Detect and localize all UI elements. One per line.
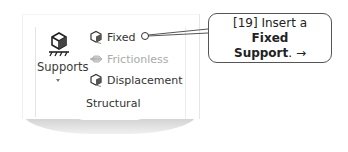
arrow-right-icon: → bbox=[296, 46, 306, 60]
callout-text: Insert a bbox=[261, 16, 307, 30]
callout-bubble: [19] Insert a Fixed Support. → bbox=[208, 13, 332, 63]
callout-period: . bbox=[288, 46, 292, 60]
callout-bold-fixed: Fixed bbox=[252, 31, 289, 45]
callout-step: [19] bbox=[233, 16, 258, 30]
callout-bold-support: Support bbox=[234, 46, 288, 60]
callout-pin bbox=[141, 32, 149, 40]
